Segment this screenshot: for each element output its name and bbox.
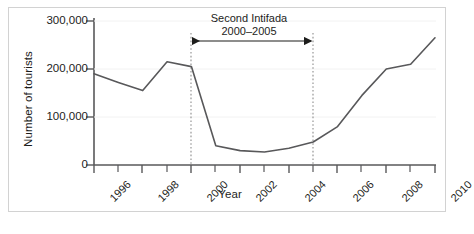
y-tick-100000: 100,000 [46,110,88,122]
y-tick-200000: 200,000 [46,62,88,74]
y-axis-title: Number of tourists [22,29,34,169]
x-axis-minor-ticks [118,165,410,172]
annotation-line-1: Second Intifada [190,12,308,25]
y-axis-tick-labels: 300,000 200,000 100,000 0 [0,0,88,234]
x-axis-title: Year [218,188,242,200]
y-tick-0: 0 [82,158,88,170]
y-tick-300000: 300,000 [46,14,88,26]
annotation-line-2: 2000–2005 [190,25,308,38]
tourists-data-line [94,38,435,152]
second-intifada-annotation: Second Intifada 2000–2005 [190,12,308,38]
